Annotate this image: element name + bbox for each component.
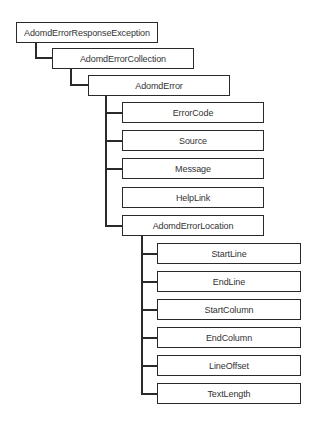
connector-line (141, 253, 157, 255)
connector-line (141, 393, 157, 395)
connector-line (105, 140, 122, 142)
connector-line (141, 281, 157, 283)
node-adomd-error-location: AdomdErrorLocation (122, 215, 264, 236)
connector-line (70, 84, 88, 86)
connector-line (141, 309, 157, 311)
node-error-code: ErrorCode (122, 102, 264, 123)
connector-line (35, 57, 52, 59)
node-adomd-error-response-exception: AdomdErrorResponseException (16, 22, 158, 43)
connector-line (141, 365, 157, 367)
connector-line (105, 225, 122, 227)
connector-trunk (141, 236, 143, 394)
node-help-link: HelpLink (122, 187, 264, 208)
connector-line (141, 337, 157, 339)
node-message: Message (122, 158, 264, 179)
connector-line (70, 68, 72, 85)
node-end-column: EndColumn (157, 327, 301, 348)
node-end-line: EndLine (157, 271, 301, 292)
node-adomd-error-collection: AdomdErrorCollection (52, 48, 194, 69)
node-start-column: StartColumn (157, 299, 301, 320)
node-source: Source (122, 130, 264, 151)
connector-line (35, 42, 37, 58)
node-line-offset: LineOffset (157, 355, 301, 376)
node-start-line: StartLine (157, 243, 301, 264)
connector-trunk (105, 95, 107, 226)
connector-line (105, 112, 122, 114)
hierarchy-diagram: AdomdErrorResponseException AdomdErrorCo… (0, 0, 319, 425)
node-text-length: TextLength (157, 383, 301, 404)
node-adomd-error: AdomdError (88, 75, 230, 96)
connector-line (105, 168, 122, 170)
